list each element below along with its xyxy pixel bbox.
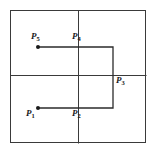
point-label-p1-subscript: 1 <box>32 112 35 119</box>
point-label-p5: P5 <box>31 32 40 41</box>
point-label-p4-subscript: 4 <box>78 35 81 42</box>
point-label-p2: P2 <box>72 109 81 118</box>
diagram-canvas <box>0 0 156 152</box>
figure-container: P5 P4 P3 P2 P1 <box>0 0 156 152</box>
point-label-p5-base: P <box>31 31 37 41</box>
point-label-p5-subscript: 5 <box>37 35 40 42</box>
dot-p5 <box>36 45 40 49</box>
point-label-p3-base: P <box>116 75 122 85</box>
point-label-p2-base: P <box>72 108 78 118</box>
point-label-p4: P4 <box>72 32 81 41</box>
point-label-p2-subscript: 2 <box>78 112 81 119</box>
dot-p1 <box>36 106 40 110</box>
point-label-p3-subscript: 3 <box>122 79 125 86</box>
point-label-p4-base: P <box>72 31 78 41</box>
point-label-p1: P1 <box>26 109 35 118</box>
point-label-p1-base: P <box>26 108 32 118</box>
staircase-path <box>38 47 113 108</box>
point-label-p3: P3 <box>116 76 125 85</box>
